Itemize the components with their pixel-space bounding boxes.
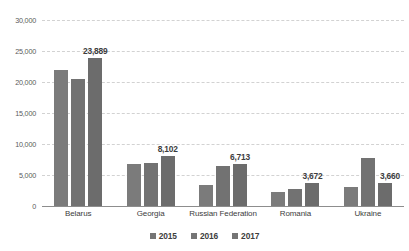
plot-area: 23,889 8,102 6,713	[42, 20, 404, 206]
y-tick-label: 30,000	[0, 16, 36, 25]
x-tick-label-romania: Romania	[259, 209, 331, 218]
legend-label: 2017	[241, 231, 259, 241]
bar-chart: 0 5,000 10,000 15,000 20,000 25,000 30,0…	[0, 0, 409, 251]
axis-baseline	[42, 206, 404, 207]
bar-georgia-2015	[127, 164, 141, 206]
legend-item-2016[interactable]: 2016	[191, 231, 218, 241]
bar-georgia-2016	[144, 163, 158, 206]
bar-romania-2015	[271, 192, 285, 206]
legend-swatch-icon	[232, 233, 238, 239]
y-tick-label: 5,000	[0, 171, 36, 180]
y-tick-label: 15,000	[0, 109, 36, 118]
bar-belarus-2015	[54, 70, 68, 206]
bar-russian-federation-2016	[216, 166, 230, 206]
x-tick-label-ukraine: Ukraine	[332, 209, 404, 218]
y-tick-label: 25,000	[0, 47, 36, 56]
bar-group-romania: 3,672	[259, 20, 331, 206]
bar-ukraine-2016	[361, 158, 375, 206]
y-tick-label: 0	[0, 202, 36, 211]
bar-romania-2017: 3,672	[305, 183, 319, 206]
bar-belarus-2016	[71, 79, 85, 206]
bar-georgia-2017: 8,102	[161, 156, 175, 206]
bar-data-label: 23,889	[83, 46, 107, 56]
legend-item-2017[interactable]: 2017	[232, 231, 259, 241]
y-tick-label: 20,000	[0, 78, 36, 87]
chart-legend: 2015 2016 2017	[0, 231, 409, 241]
x-tick-label-russian-federation: Russian Federation	[187, 209, 259, 218]
bar-ukraine-2017: 3,660	[378, 183, 392, 206]
legend-item-2015[interactable]: 2015	[150, 231, 177, 241]
bar-ukraine-2015	[344, 187, 358, 206]
x-tick-label-belarus: Belarus	[42, 209, 114, 218]
bar-data-label: 8,102	[158, 144, 178, 154]
bar-data-label: 3,672	[302, 171, 322, 181]
bar-group-belarus: 23,889	[42, 20, 114, 206]
legend-label: 2015	[159, 231, 177, 241]
bar-group-georgia: 8,102	[114, 20, 186, 206]
x-tick-label-georgia: Georgia	[114, 209, 186, 218]
bar-russian-federation-2017: 6,713	[233, 164, 247, 206]
bar-groups: 23,889 8,102 6,713	[42, 20, 404, 206]
legend-label: 2016	[200, 231, 218, 241]
bar-russian-federation-2015	[199, 185, 213, 206]
bar-belarus-2017: 23,889	[88, 58, 102, 206]
bar-data-label: 6,713	[230, 152, 250, 162]
bar-romania-2016	[288, 189, 302, 206]
bar-group-russian-federation: 6,713	[187, 20, 259, 206]
legend-swatch-icon	[191, 233, 197, 239]
legend-swatch-icon	[150, 233, 156, 239]
bar-data-label: 3,660	[380, 171, 400, 181]
y-tick-label: 10,000	[0, 140, 36, 149]
x-axis-labels: Belarus Georgia Russian Federation Roman…	[42, 209, 404, 218]
bar-group-ukraine: 3,660	[332, 20, 404, 206]
